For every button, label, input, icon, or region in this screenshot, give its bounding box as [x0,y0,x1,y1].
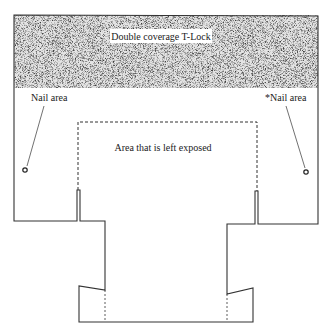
nail-right-icon [304,170,308,174]
title-label: Double coverage T-Lock [111,31,210,42]
exposed-area-boundary [78,122,257,191]
double-coverage-band [14,15,318,88]
nail-right-leader [286,106,305,168]
t-lock-shingle-diagram: Double coverage T-Lock Area that is left… [0,0,327,329]
nail-left-leader [27,106,44,166]
exposed-area-label: Area that is left exposed [114,142,211,153]
nail-left-icon [23,168,27,172]
nail-area-right-label: *Nail area [265,92,307,103]
nail-area-left-label: Nail area [31,92,68,103]
